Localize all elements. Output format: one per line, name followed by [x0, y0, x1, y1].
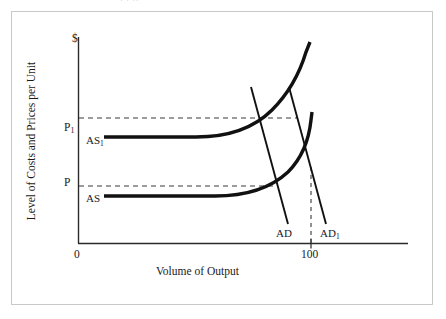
curve-label-as-text: AS — [86, 192, 100, 204]
y-axis-title: Level of Costs and Prices per Unit — [25, 46, 37, 236]
price-label-p-text: P — [64, 176, 70, 188]
price-label-p: P — [64, 177, 70, 189]
curve-as — [104, 112, 312, 196]
y-axis-currency-symbol: $ — [72, 33, 78, 45]
curve-label-ad: AD — [276, 228, 292, 239]
curve-label-ad1-text: AD — [320, 227, 336, 239]
curve-label-as1-text: AS — [86, 134, 100, 146]
curve-ad1 — [289, 87, 326, 224]
curve-label-as1: AS1 — [86, 135, 104, 146]
curve-label-as: AS — [86, 193, 100, 204]
curve-label-ad-text: AD — [276, 227, 292, 239]
price-label-p1: P1 — [64, 122, 74, 134]
x-tick-label-100: 100 — [301, 249, 318, 261]
figure-root: · · ·· Level of Costs and Prices per Uni… — [0, 0, 446, 319]
curve-label-as1-subscript: 1 — [100, 139, 104, 148]
curve-label-ad1-subscript: 1 — [336, 232, 340, 241]
x-axis-title: Volume of Output — [156, 266, 239, 278]
price-label-p1-subscript: 1 — [70, 126, 74, 135]
curve-as1 — [104, 42, 310, 137]
curve-label-ad1: AD1 — [320, 228, 340, 239]
x-tick-label-0: 0 — [74, 249, 80, 261]
curve-ad — [251, 87, 288, 224]
